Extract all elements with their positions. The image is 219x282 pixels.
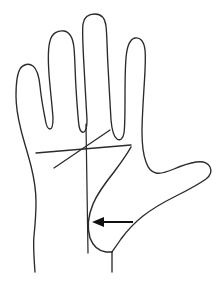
hand-figure-container [0, 0, 219, 282]
figure-background [0, 0, 219, 282]
hand-line-drawing [0, 0, 219, 282]
